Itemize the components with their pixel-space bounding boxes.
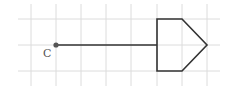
arrow-diagram: C: [0, 0, 232, 93]
point-c: [53, 42, 58, 47]
diagram-canvas: C: [0, 0, 232, 93]
point-label-c: C: [43, 47, 51, 60]
